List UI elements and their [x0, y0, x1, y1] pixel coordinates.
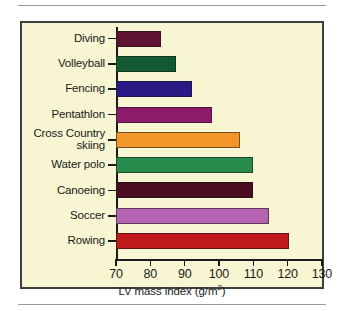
- category-tick-mark: [108, 114, 116, 116]
- bar-category-label: Diving: [22, 33, 108, 45]
- bar-track: [116, 178, 322, 203]
- value-axis-tick: [287, 259, 289, 266]
- category-tick-mark: [108, 215, 116, 217]
- value-axis-ticklabel: 80: [144, 267, 158, 281]
- bar-category-label: Water polo: [22, 159, 108, 171]
- value-axis-ticklabel: 120: [278, 267, 298, 281]
- bar: [116, 233, 289, 249]
- bar-category-label: Canoeing: [22, 185, 108, 197]
- bar-category-label: Fencing: [22, 83, 108, 95]
- bar: [116, 132, 240, 148]
- bar-track: [116, 203, 322, 228]
- bar-row: Fencing: [22, 77, 322, 102]
- bar-row: Pentathlon: [22, 102, 322, 127]
- bar-row: Rowing: [22, 228, 322, 253]
- value-axis-tick: [150, 259, 152, 266]
- value-axis-ticklabel: 130: [312, 267, 332, 281]
- value-axis-tick: [218, 259, 220, 266]
- figure-panel: DivingVolleyballFencingPentathlonCross C…: [20, 21, 324, 289]
- page-rule-top: [18, 5, 326, 6]
- bar-track: [116, 102, 322, 127]
- value-axis-ticklabels: 708090100110120130: [116, 267, 322, 283]
- bar-row: Soccer: [22, 203, 322, 228]
- category-tick-mark: [108, 88, 116, 90]
- value-axis-ticklabel: 70: [109, 267, 123, 281]
- bar: [116, 107, 212, 123]
- bar: [116, 81, 192, 97]
- bar-track: [116, 26, 322, 51]
- bar-category-label: Volleyball: [22, 58, 108, 70]
- category-tick-mark: [108, 63, 116, 65]
- value-axis-tick: [253, 259, 255, 266]
- page-rule-bottom: [18, 304, 326, 305]
- value-axis-tick: [115, 259, 117, 266]
- value-axis-ticklabel: 90: [178, 267, 192, 281]
- bar-row: Cross Country skiing: [22, 127, 322, 152]
- value-axis-line: [116, 259, 322, 261]
- bar-row: Water polo: [22, 152, 322, 177]
- bar-row: Volleyball: [22, 51, 322, 76]
- bar: [116, 31, 161, 47]
- bar-rows: DivingVolleyballFencingPentathlonCross C…: [22, 26, 322, 254]
- value-axis-ticklabel: 100: [209, 267, 229, 281]
- plot-area: DivingVolleyballFencingPentathlonCross C…: [22, 23, 322, 287]
- bar-category-label: Rowing: [22, 235, 108, 247]
- bar-track: [116, 77, 322, 102]
- category-tick-mark: [108, 139, 116, 141]
- bar: [116, 157, 253, 173]
- bar-category-label: Soccer: [22, 210, 108, 222]
- bar-track: [116, 228, 322, 253]
- bar-track: [116, 127, 322, 152]
- bar-track: [116, 51, 322, 76]
- x-axis-title: LV mass index (g/m2): [22, 285, 322, 297]
- x-axis-title-tail: ): [222, 285, 226, 297]
- category-tick-mark: [108, 164, 116, 166]
- bar-row: Canoeing: [22, 178, 322, 203]
- value-axis-ticklabel: 110: [244, 267, 263, 281]
- bar: [116, 56, 176, 72]
- value-axis-tick: [184, 259, 186, 266]
- value-axis-tick: [321, 259, 323, 266]
- category-tick-mark: [108, 38, 116, 40]
- bar-category-label: Cross Country skiing: [22, 128, 108, 151]
- category-tick-mark: [108, 190, 116, 192]
- bar-category-label: Pentathlon: [22, 109, 108, 121]
- bar: [116, 208, 269, 224]
- category-tick-mark: [108, 240, 116, 242]
- bar-track: [116, 152, 322, 177]
- x-axis-title-base: LV mass index (g/m: [118, 285, 217, 297]
- bar-row: Diving: [22, 26, 322, 51]
- bar: [116, 182, 253, 198]
